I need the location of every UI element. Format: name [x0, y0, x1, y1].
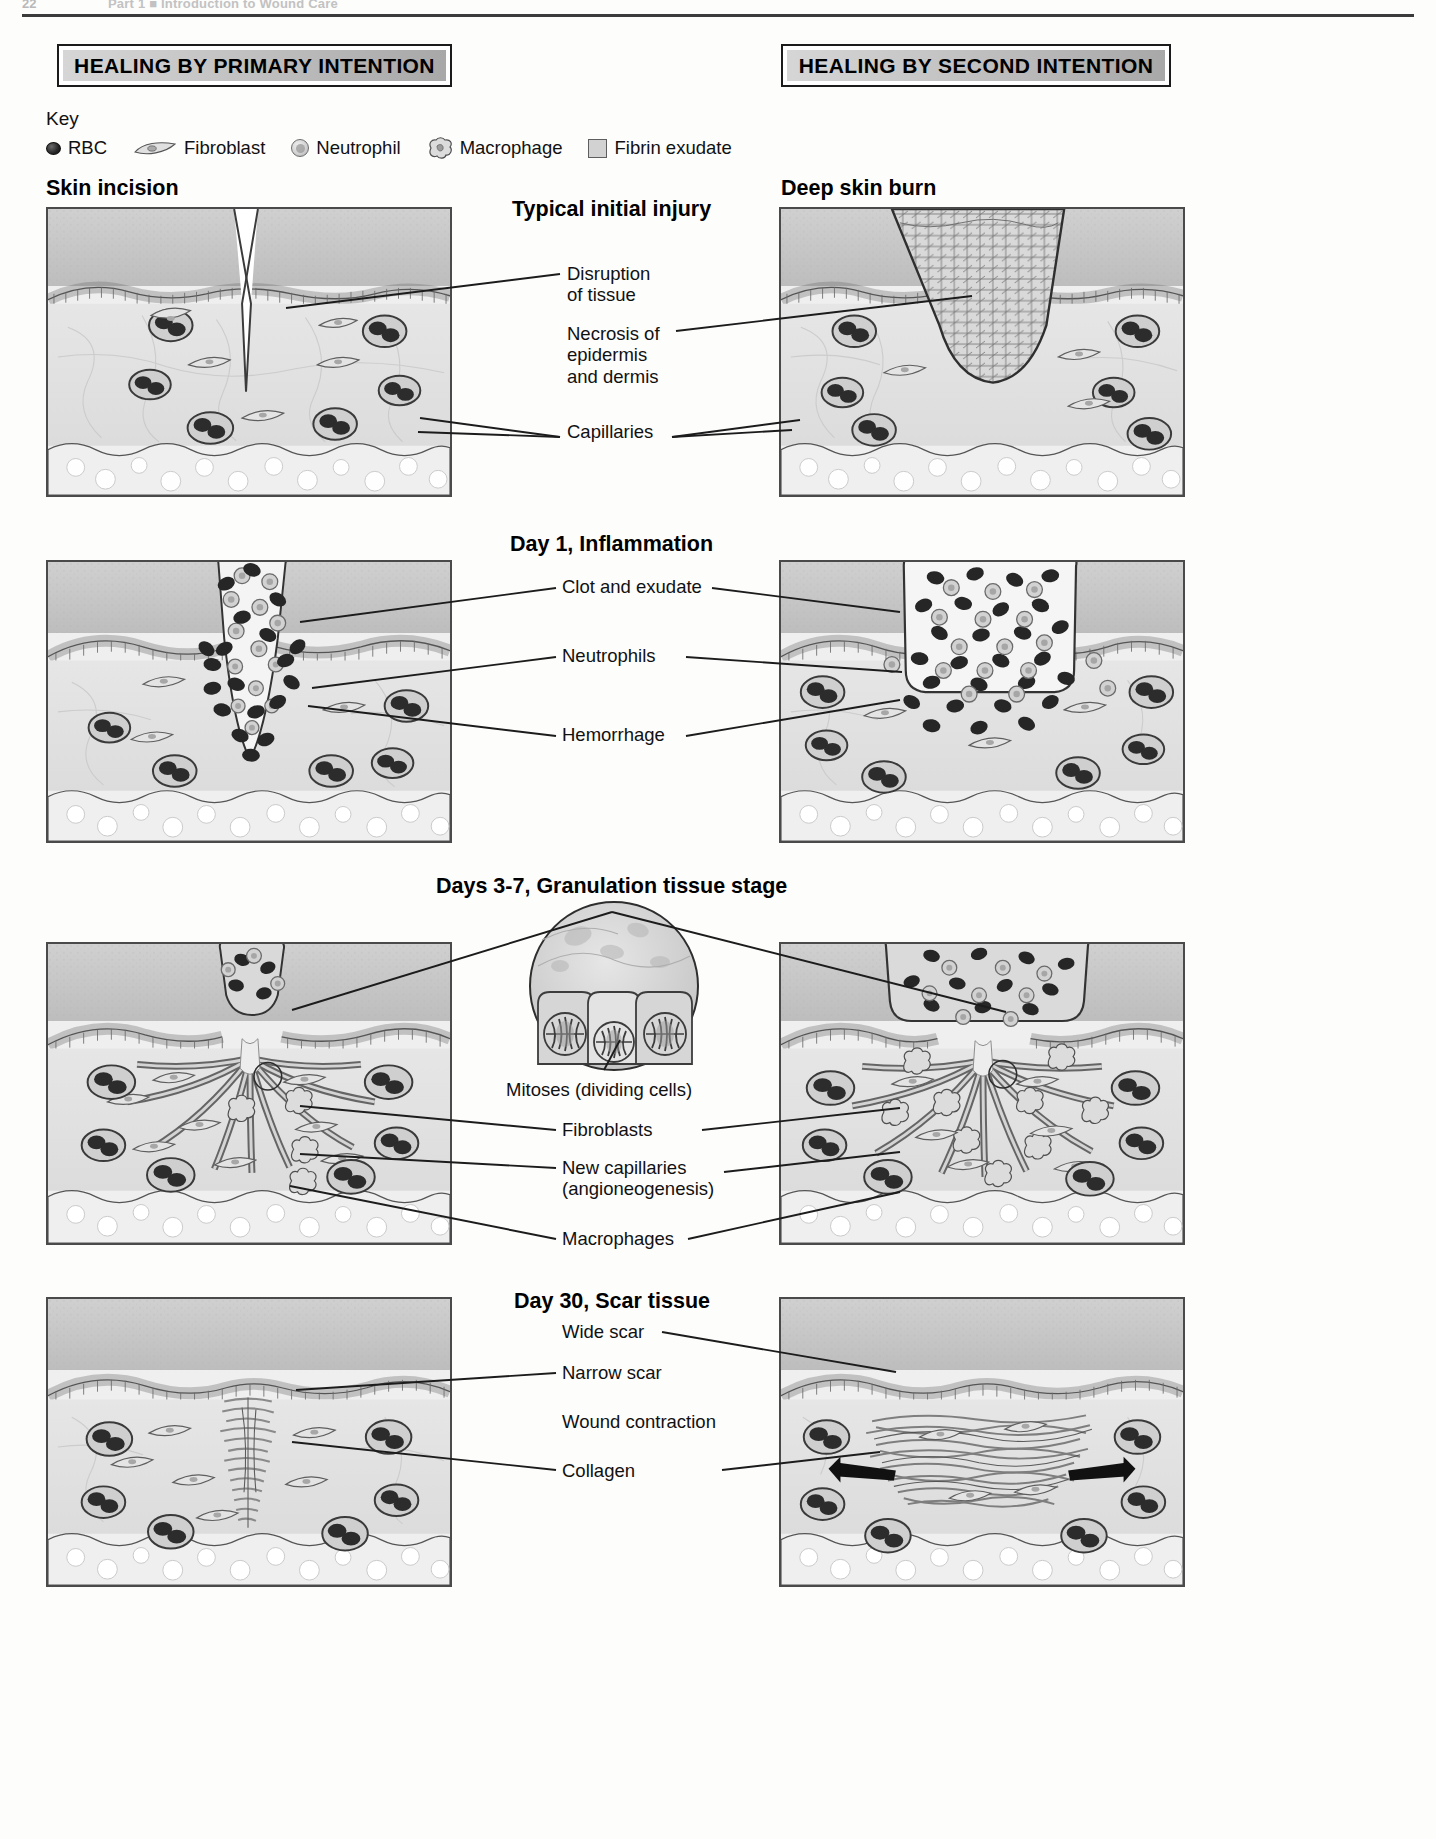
callout-capillaries: Capillaries — [567, 421, 653, 442]
key-item-fibrin-exudate: Fibrin exudate — [588, 137, 731, 159]
caption-deep-skin-burn: Deep skin burn — [781, 176, 936, 201]
macrophage-icon — [427, 137, 453, 159]
banner-primary-label: HEALING BY PRIMARY INTENTION — [74, 54, 435, 78]
callout-neutrophils: Neutrophils — [562, 645, 656, 666]
callout-collagen: Collagen — [562, 1460, 635, 1481]
callout-mitoses: Mitoses (dividing cells) — [506, 1079, 692, 1100]
panel-granulation-second — [779, 942, 1185, 1245]
neutrophil-icon — [291, 139, 309, 157]
key-item-neutrophil: Neutrophil — [291, 137, 400, 159]
caption-skin-incision: Skin incision — [46, 176, 179, 201]
page-folio: 22 — [22, 0, 36, 11]
callout-narrow-scar: Narrow scar — [562, 1362, 662, 1383]
callout-fibroblasts: Fibroblasts — [562, 1119, 652, 1140]
rbc-icon — [46, 142, 61, 155]
panel-granulation-primary — [46, 942, 452, 1245]
key-label-rbc: RBC — [68, 137, 107, 159]
heading-typical-initial-injury: Typical initial injury — [512, 197, 711, 222]
callout-disruption-of-tissue: Disruption of tissue — [567, 263, 650, 306]
inset-mitoses — [508, 900, 720, 1072]
panel-day1-primary — [46, 560, 452, 843]
callout-wound-contraction: Wound contraction — [562, 1411, 716, 1432]
key-label-neutrophil: Neutrophil — [316, 137, 400, 159]
running-head: Part 1 ■ Introduction to Wound Care — [108, 0, 338, 11]
banner-primary-intention: HEALING BY PRIMARY INTENTION — [57, 44, 452, 87]
panel-skin-incision — [46, 207, 452, 497]
page-header: 22 Part 1 ■ Introduction to Wound Care — [0, 0, 1436, 22]
callout-hemorrhage: Hemorrhage — [562, 724, 665, 745]
key-label-fibrin-exudate: Fibrin exudate — [614, 137, 731, 159]
banner-second-intention: HEALING BY SECOND INTENTION — [781, 44, 1171, 87]
heading-granulation-tissue-stage: Days 3-7, Granulation tissue stage — [436, 874, 787, 899]
panel-scar-second — [779, 1297, 1185, 1587]
key-legend: Key RBC Fibroblast Neutrophil Macrophage — [46, 108, 826, 159]
key-item-macrophage: Macrophage — [427, 137, 563, 159]
heading-day-1-inflammation: Day 1, Inflammation — [510, 532, 713, 557]
callout-clot-and-exudate: Clot and exudate — [562, 576, 702, 597]
callout-wide-scar: Wide scar — [562, 1321, 644, 1342]
key-title: Key — [46, 108, 826, 130]
key-item-fibroblast: Fibroblast — [133, 137, 265, 159]
panel-day1-second — [779, 560, 1185, 843]
callout-macrophages: Macrophages — [562, 1228, 674, 1249]
panel-deep-skin-burn — [779, 207, 1185, 497]
fibrin-exudate-icon — [588, 139, 607, 158]
key-item-rbc: RBC — [46, 137, 107, 159]
heading-day-30-scar-tissue: Day 30, Scar tissue — [514, 1289, 710, 1314]
banner-second-label: HEALING BY SECOND INTENTION — [799, 54, 1154, 78]
callout-necrosis-of-epidermis-and-dermis: Necrosis of epidermis and dermis — [567, 323, 660, 387]
header-rule — [22, 14, 1414, 17]
callout-new-capillaries: New capillaries (angioneogenesis) — [562, 1157, 714, 1200]
panel-scar-primary — [46, 1297, 452, 1587]
fibroblast-icon — [133, 140, 177, 157]
key-label-macrophage: Macrophage — [460, 137, 563, 159]
key-label-fibroblast: Fibroblast — [184, 137, 265, 159]
